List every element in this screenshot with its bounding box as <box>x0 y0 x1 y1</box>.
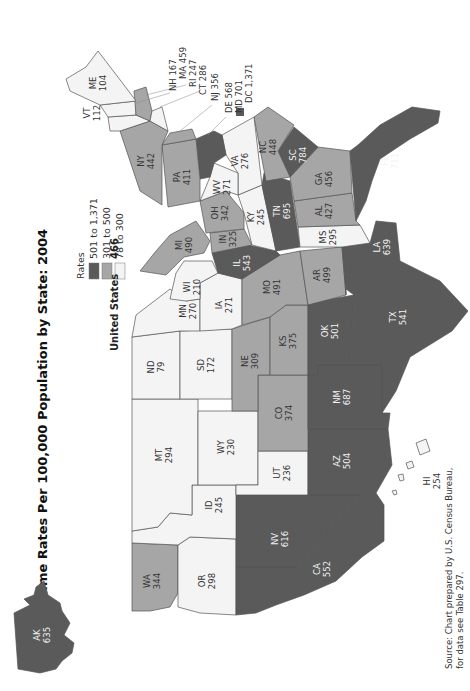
label-code-PA: PA <box>172 172 182 183</box>
label-value-KY: 245 <box>256 209 266 225</box>
label-code-NV: NV <box>270 533 280 545</box>
crime-rate-map: Figure 5.1 Violent Crime Rates Per 100,0… <box>0 0 470 691</box>
label-value-WV: 271 <box>222 179 232 195</box>
label-code-FL: FL <box>380 156 390 166</box>
label-code-ID: ID <box>204 500 214 510</box>
label-code-GA: GA <box>314 173 324 186</box>
label-code-MI: MI <box>174 240 184 250</box>
label-code-CA: CA <box>312 563 322 575</box>
label-value-SC: 784 <box>298 147 308 163</box>
label-value-AK: 635 <box>42 627 52 643</box>
label-value-MS: 295 <box>328 229 338 245</box>
source-note-line1: Source: Chart prepared by U.S. Census Bu… <box>444 468 454 669</box>
label-value-GA: 456 <box>324 171 334 187</box>
callout-MD: MD 701 <box>234 80 244 113</box>
label-value-MO: 491 <box>272 279 282 295</box>
label-value-NC: 448 <box>268 139 278 155</box>
label-code-NC: NC <box>258 141 268 153</box>
label-value-AZ: 504 <box>342 453 352 469</box>
label-code-WV: WV <box>212 180 222 194</box>
label-value-ID: 245 <box>214 497 224 513</box>
label-value-WY: 230 <box>226 439 236 455</box>
label-code-VT: VT <box>82 107 92 119</box>
label-code-IL: IL <box>232 259 242 267</box>
legend-label-high: 501 to 1,371 <box>88 198 99 259</box>
label-code-MN: MN <box>178 304 188 318</box>
label-value-MN: 270 <box>188 303 198 319</box>
label-code-AZ: AZ <box>332 455 342 467</box>
label-value-ME: 104 <box>98 75 108 91</box>
label-value-HI: 254 <box>432 473 442 489</box>
label-value-TX: 541 <box>398 309 408 325</box>
label-code-KY: KY <box>246 211 256 222</box>
label-code-TN: TN <box>272 205 282 218</box>
label-value-OR: 298 <box>207 573 217 589</box>
callout-DC: DC 1,371 <box>244 63 254 103</box>
label-code-MO: MO <box>262 280 272 294</box>
label-code-KS: KS <box>278 336 288 347</box>
callout-CT: CT 286 <box>198 65 208 95</box>
label-code-WY: WY <box>216 439 226 453</box>
label-code-OK: OK <box>320 324 330 337</box>
label-value-PA: 411 <box>182 169 192 185</box>
national-rate-label: United States <box>109 274 120 351</box>
label-code-HI: HI <box>422 477 432 486</box>
label-value-SD: 172 <box>206 357 216 373</box>
label-code-MT: MT <box>154 448 164 461</box>
label-code-SD: SD <box>196 359 206 371</box>
national-rate-value: 466 <box>109 238 120 259</box>
figure-page: Figure 5.1 Violent Crime Rates Per 100,0… <box>0 0 470 691</box>
label-value-VA: 276 <box>240 153 250 169</box>
hi-island-4 <box>392 490 397 495</box>
label-code-NM: NM <box>332 390 342 404</box>
label-value-NM: 687 <box>342 389 352 405</box>
label-value-VT: 112 <box>92 105 102 121</box>
legend-title: Rates <box>75 252 86 279</box>
label-code-CO: CO <box>274 406 284 419</box>
state-HI[interactable] <box>416 439 430 455</box>
label-code-ME: ME <box>88 77 98 90</box>
label-code-AK: AK <box>32 629 42 641</box>
label-value-MI: 490 <box>184 237 194 253</box>
label-code-LA: LA <box>372 241 382 252</box>
label-code-VA: VA <box>230 155 240 166</box>
label-code-AR: AR <box>312 269 322 281</box>
label-value-IA: 271 <box>224 297 234 313</box>
label-value-WA: 344 <box>152 573 162 589</box>
label-code-IA: IA <box>214 301 224 310</box>
source-note-line2: for data see Table 297. <box>455 572 465 669</box>
label-value-UT: 236 <box>282 465 292 481</box>
label-code-ND: ND <box>146 360 156 373</box>
label-value-FL: 711 <box>390 153 400 169</box>
legend-swatch-high <box>89 263 99 279</box>
hi-island-3 <box>398 474 404 481</box>
label-value-ND: 79 <box>156 362 166 373</box>
label-value-NE: 309 <box>250 353 260 369</box>
hi-island-2 <box>406 461 414 469</box>
label-code-UT: UT <box>272 466 282 478</box>
label-value-OH: 342 <box>220 205 230 221</box>
label-code-IN: IN <box>218 235 228 244</box>
label-value-NY: 442 <box>146 153 156 169</box>
label-value-WI: 210 <box>192 279 202 295</box>
label-code-SC: SC <box>288 149 298 160</box>
label-code-OR: OR <box>197 575 207 588</box>
label-code-OH: OH <box>210 206 220 219</box>
label-code-WI: WI <box>182 282 192 293</box>
callout-MA: MA 459 <box>178 47 188 79</box>
label-value-CA: 552 <box>322 561 332 577</box>
label-value-MT: 294 <box>164 447 174 463</box>
label-value-OK: 501 <box>330 323 340 339</box>
label-value-IN: 325 <box>228 231 238 247</box>
label-value-AL: 427 <box>324 203 334 219</box>
label-code-NE: NE <box>240 355 250 367</box>
label-code-MS: MS <box>318 231 328 244</box>
label-value-NV: 616 <box>280 531 290 547</box>
label-value-CO: 374 <box>284 405 294 421</box>
label-value-IL: 543 <box>242 255 252 271</box>
callout-NJ: NJ 356 <box>210 73 220 101</box>
callout-DE: DE 568 <box>224 82 234 113</box>
label-code-TX: TX <box>388 311 398 323</box>
state-MT[interactable] <box>132 399 198 531</box>
label-value-AR: 499 <box>322 267 332 283</box>
